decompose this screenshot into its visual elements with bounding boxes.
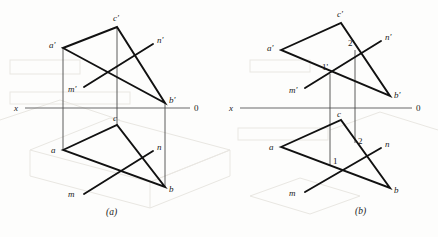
endpoint-label-n-prime-b: n'	[385, 32, 393, 42]
vertex-label-b: b	[169, 184, 174, 194]
endpoint-label-m-prime-b: m'	[289, 85, 298, 95]
endpoint-label-m-a: m	[68, 189, 75, 199]
endpoint-label-n-b: n	[385, 139, 390, 149]
axis-label-origin-b: 0	[416, 103, 421, 113]
triangle-horizontal-a	[63, 125, 165, 187]
intersection-label-1-prime: 1'	[322, 62, 329, 72]
vertex-label-a-b: a	[269, 142, 274, 152]
line-mn-horizontal-a	[84, 151, 153, 194]
vertex-label-b-b: b	[394, 185, 399, 195]
vertex-label-c-b: c	[337, 109, 341, 119]
vertex-label-a-prime: a'	[49, 40, 57, 50]
figure-page: x 0 a' c' b' m' n' a c b m n (a)	[0, 0, 438, 237]
vertex-label-b-prime-b: b'	[394, 90, 402, 100]
vertex-label-c-prime: c'	[113, 13, 120, 23]
axis-label-origin-a: 0	[194, 103, 199, 113]
triangle-horizontal-b	[281, 120, 390, 188]
endpoint-label-m-b: m	[289, 188, 296, 198]
caption-a: (a)	[106, 207, 117, 218]
figure-svg: x 0 a' c' b' m' n' a c b m n (a)	[0, 0, 438, 237]
endpoint-label-n-a: n	[157, 142, 162, 152]
vertex-label-c-prime-b: c'	[337, 9, 344, 19]
intersection-label-1: 1	[333, 156, 338, 166]
endpoint-label-n-prime-a: n'	[157, 35, 165, 45]
axis-label-x-a: x	[13, 103, 18, 113]
vertex-label-c: c	[113, 113, 117, 123]
vertex-label-a: a	[51, 145, 56, 155]
axis-label-x-b: x	[228, 103, 233, 113]
caption-b: (b)	[355, 206, 366, 217]
intersection-label-2: 2	[358, 136, 363, 146]
line-mn-horizontal-b	[305, 148, 381, 192]
vertex-label-a-prime-b: a'	[267, 43, 275, 53]
intersection-label-2-prime: 2'	[348, 38, 355, 48]
endpoint-label-m-prime-a: m'	[68, 84, 77, 94]
vertex-label-b-prime: b'	[169, 95, 177, 105]
background-ghost-artwork	[0, 60, 438, 214]
